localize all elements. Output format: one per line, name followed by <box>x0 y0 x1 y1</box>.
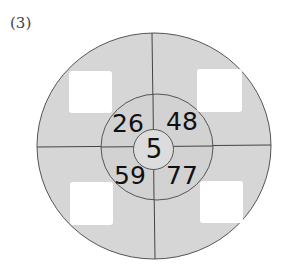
inner-number-top-right: 48 <box>166 107 198 136</box>
inner-number-bottom-left: 59 <box>114 161 146 190</box>
number-wheel-diagram: 26 48 5 59 77 <box>0 0 287 266</box>
answer-box-bottom-left[interactable] <box>70 182 113 225</box>
center-number: 5 <box>146 134 163 164</box>
answer-box-top-right[interactable] <box>197 69 242 112</box>
inner-number-top-left: 26 <box>112 109 144 138</box>
inner-number-bottom-right: 77 <box>166 161 198 190</box>
answer-box-bottom-right[interactable] <box>200 181 243 223</box>
answer-box-top-left[interactable] <box>69 71 112 113</box>
